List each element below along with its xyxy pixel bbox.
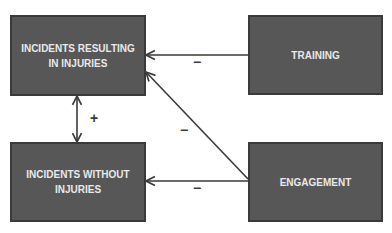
sign-engagement-injuries: − <box>180 123 188 137</box>
node-label: TRAINING <box>291 48 339 63</box>
node-engagement: ENGAGEMENT <box>248 142 383 222</box>
sign-injuries-no-injuries: + <box>90 111 98 125</box>
node-label: INCIDENTS RESULTING IN INJURIES <box>20 41 136 71</box>
node-label: ENGAGEMENT <box>280 175 352 190</box>
sign-training-injuries: − <box>193 55 201 69</box>
node-incidents-no-injuries: INCIDENTS WITHOUT INJURIES <box>10 142 146 222</box>
node-incidents-injuries: INCIDENTS RESULTING IN INJURIES <box>10 15 146 96</box>
edge-engagement-to-injuries <box>146 72 248 179</box>
node-label: INCIDENTS WITHOUT INJURIES <box>20 167 136 197</box>
sign-engagement-no-injuries: − <box>193 181 201 195</box>
node-training: TRAINING <box>248 15 383 95</box>
